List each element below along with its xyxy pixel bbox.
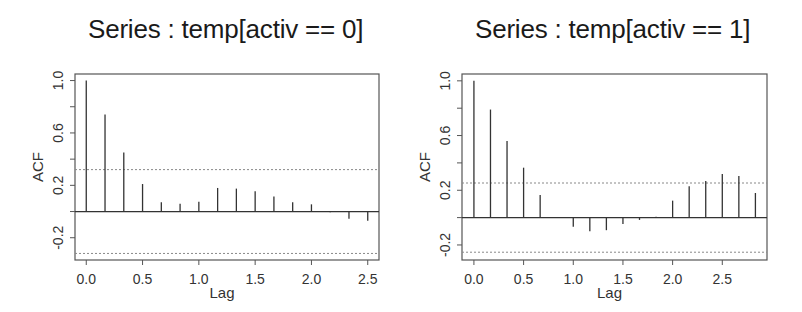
x-tick-label: 2.5 xyxy=(713,271,733,287)
x-tick-label: 1.5 xyxy=(245,271,265,287)
y-tick-label: 1.0 xyxy=(50,71,66,91)
x-tick-label: 2.0 xyxy=(663,271,683,287)
y-tick-label: 0.6 xyxy=(437,126,453,146)
x-tick-label: 2.5 xyxy=(358,271,378,287)
plot-frame xyxy=(462,74,767,260)
y-tick-label: -0.2 xyxy=(437,233,453,257)
x-tick-label: 1.0 xyxy=(564,271,584,287)
y-tick-label: 0.6 xyxy=(50,123,66,143)
plot-frame xyxy=(75,74,379,260)
x-tick-label: 0.5 xyxy=(133,271,153,287)
x-tick-label: 0.0 xyxy=(77,271,97,287)
y-tick-label: 0.2 xyxy=(437,180,453,200)
acf-chart-activ-1: -0.20.20.61.0ACF0.00.51.01.52.02.5Lag xyxy=(401,0,802,312)
y-axis-title: ACF xyxy=(416,152,433,182)
x-tick-label: 1.0 xyxy=(189,271,209,287)
acf-panel-activ-0: Series : temp[activ == 0] -0.20.20.61.0A… xyxy=(0,0,401,312)
x-tick-label: 0.5 xyxy=(514,271,534,287)
x-axis-title: Lag xyxy=(597,284,622,301)
y-tick-label: -0.2 xyxy=(50,225,66,249)
y-tick-label: 1.0 xyxy=(437,71,453,91)
y-axis-title: ACF xyxy=(29,152,46,182)
y-tick-label: 0.2 xyxy=(50,175,66,195)
x-axis-title: Lag xyxy=(209,284,234,301)
x-tick-label: 0.0 xyxy=(464,271,484,287)
x-tick-label: 2.0 xyxy=(302,271,322,287)
acf-chart-activ-0: -0.20.20.61.0ACF0.00.51.01.52.02.5Lag xyxy=(0,0,401,312)
acf-panel-activ-1: Series : temp[activ == 1] -0.20.20.61.0A… xyxy=(401,0,802,312)
